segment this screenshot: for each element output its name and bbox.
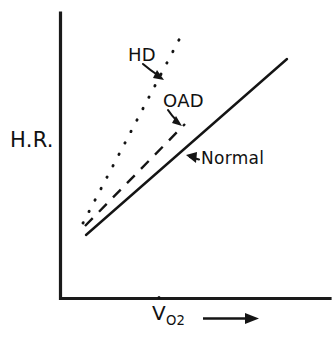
series-line-normal (86, 59, 287, 235)
oad-leader-arrow (168, 110, 182, 126)
annotation-label-normal: Normal (201, 150, 264, 167)
hd-leader-arrow (143, 64, 164, 80)
x-axis-label-sub-o: O (166, 313, 176, 328)
series-line-oad (85, 124, 185, 226)
annotation-label-hd: HD (128, 46, 156, 64)
x-axis-direction-arrow (203, 313, 259, 324)
v-dot-overmark (157, 296, 160, 299)
x-axis-label-v-glyph: V (152, 301, 166, 325)
normal-leader-arrow (186, 152, 199, 163)
figure-canvas: H.R. HD OAD Normal VO2 (0, 0, 336, 354)
x-axis-label-v: V (152, 303, 166, 323)
y-axis-label: H.R. (10, 130, 54, 151)
x-axis-label: VO2 (152, 303, 185, 327)
annotation-label-oad: OAD (163, 92, 204, 110)
figure-drawing (0, 0, 336, 354)
x-axis-label-sub-two: 2 (176, 313, 184, 328)
